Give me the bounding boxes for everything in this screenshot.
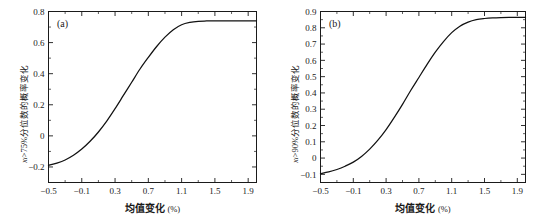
y-tick-label: 0.4 <box>305 88 317 98</box>
x-tick-label: 0.7 <box>143 186 155 196</box>
figure-container: xi>75%分位数的概率变化 −0.5−0.10.30.71.11.51.90.… <box>0 0 540 221</box>
y-tick-label: 0.5 <box>305 72 317 82</box>
x-axis-label-a: 均值变化 (%) <box>48 200 257 215</box>
y-axis-label-a-rest: >75%分位数的概率变化 <box>19 65 29 157</box>
y-tick-label: 0.6 <box>305 56 317 66</box>
y-tick-label: 0.8 <box>305 23 317 33</box>
y-tick-label: 0.4 <box>33 69 45 79</box>
y-tick-label: 0.2 <box>305 121 316 131</box>
y-axis-label-a-var: x <box>19 159 29 163</box>
chart-panel-b: xi>90%分位数的概率变化 −0.5−0.10.30.71.11.51.90.… <box>270 0 540 221</box>
y-tick-label: 0.6 <box>33 38 45 48</box>
y-axis-label-a-sub: i <box>21 157 28 159</box>
y-tick-label: 0 <box>40 131 45 141</box>
axis-ticks-b <box>321 12 526 183</box>
x-axis-label-b-text: 均值变化 (%) <box>395 203 450 214</box>
x-tick-label: 1.9 <box>243 186 255 196</box>
panel-label-b: (b) <box>329 18 341 30</box>
y-tick-label: −0.1 <box>300 170 316 180</box>
x-tick-label: 0.3 <box>109 186 121 196</box>
y-tick-label: 0.3 <box>305 104 317 114</box>
y-axis-label-a: xi>75%分位数的概率变化 <box>17 65 29 163</box>
x-tick-label: 0.3 <box>380 186 392 196</box>
x-tick-label: 1.9 <box>512 186 524 196</box>
y-tick-label: 0.7 <box>305 39 317 49</box>
y-tick-label: 0.9 <box>305 7 317 17</box>
x-tick-label: 1.1 <box>446 186 457 196</box>
axis-tick-labels-a: −0.5−0.10.30.71.11.51.90.80.60.40.20−0.2 <box>28 7 254 196</box>
x-tick-label: 1.5 <box>479 186 491 196</box>
y-axis-label-b: xi>90%分位数的概率变化 <box>288 65 300 163</box>
x-tick-label: −0.5 <box>312 186 329 196</box>
panel-label-a: (a) <box>57 18 68 30</box>
y-tick-label: 0 <box>312 153 317 163</box>
plot-area-a: −0.5−0.10.30.71.11.51.90.80.60.40.20−0.2… <box>0 0 270 221</box>
x-tick-label: −0.1 <box>74 186 90 196</box>
axis-tick-labels-b: −0.5−0.10.30.71.11.51.90.90.80.70.60.50.… <box>300 7 523 196</box>
plot-frame-b <box>321 12 526 183</box>
data-curve-b <box>321 17 526 173</box>
axis-ticks-a <box>49 12 257 183</box>
plot-area-b: −0.5−0.10.30.71.11.51.90.90.80.70.60.50.… <box>270 0 540 221</box>
x-axis-label-b: 均值变化 (%) <box>320 200 526 215</box>
y-tick-label: −0.2 <box>28 162 44 172</box>
y-axis-label-b-var: x <box>290 159 300 163</box>
y-tick-label: 0.2 <box>33 100 44 110</box>
x-tick-label: −0.5 <box>40 186 57 196</box>
y-tick-label: 0.8 <box>33 7 45 17</box>
chart-panel-a: xi>75%分位数的概率变化 −0.5−0.10.30.71.11.51.90.… <box>0 0 270 221</box>
y-axis-label-b-rest: >90%分位数的概率变化 <box>290 65 300 157</box>
y-axis-label-b-sub: i <box>292 157 299 159</box>
plot-frame-a <box>49 12 257 183</box>
x-tick-label: −0.1 <box>345 186 361 196</box>
x-axis-label-a-text: 均值变化 (%) <box>125 203 180 214</box>
x-tick-label: 1.1 <box>176 186 187 196</box>
x-tick-label: 0.7 <box>413 186 425 196</box>
y-tick-label: 0.1 <box>305 137 316 147</box>
data-curve-a <box>49 21 257 166</box>
x-tick-label: 1.5 <box>209 186 221 196</box>
